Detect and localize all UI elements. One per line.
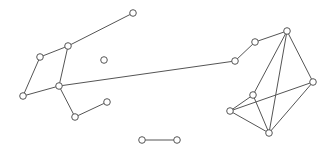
node-O (266, 130, 273, 137)
node-K (284, 28, 291, 35)
node-Q (174, 137, 181, 144)
edge-B-C (40, 46, 68, 57)
edge-I-J (235, 42, 255, 61)
edge-F-I (59, 61, 235, 86)
edge-K-O (269, 31, 287, 133)
edge-K-L (287, 31, 313, 82)
node-E (20, 93, 27, 100)
node-B (65, 43, 72, 50)
node-N (227, 108, 234, 115)
edge-G-H (75, 102, 107, 117)
node-M (250, 92, 257, 99)
node-L (310, 79, 317, 86)
node-J (252, 39, 259, 46)
edge-A-B (68, 13, 133, 46)
edge-C-E (23, 57, 40, 96)
edge-N-O (230, 111, 269, 133)
node-H (104, 99, 111, 106)
node-C (37, 54, 44, 61)
edge-B-F (59, 46, 68, 86)
network-graph (0, 0, 334, 155)
edge-E-F (23, 86, 59, 96)
edge-M-O (253, 95, 269, 133)
node-F (56, 83, 63, 90)
edge-F-G (59, 86, 75, 117)
node-D (101, 57, 108, 64)
node-P (139, 137, 146, 144)
node-A (130, 10, 137, 17)
edge-M-N (230, 95, 253, 111)
node-G (72, 114, 79, 121)
node-I (232, 58, 239, 65)
nodes-layer (20, 10, 317, 144)
edges-layer (23, 13, 313, 140)
